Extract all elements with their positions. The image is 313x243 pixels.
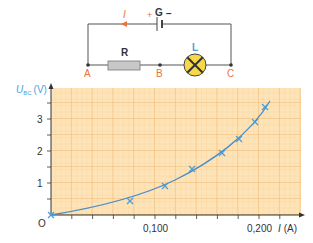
x-axis-label-unit: (A) (284, 223, 297, 234)
generator-minus-label: − (166, 8, 172, 19)
current-arrow-icon (121, 21, 127, 27)
node-a-dot (86, 63, 90, 67)
circuit-diagram: + G − I R L A B C (84, 7, 234, 79)
generator-plus-label: + (147, 10, 152, 20)
y-tick-label-1: 1 (37, 178, 43, 189)
y-axis-arrow-icon (49, 83, 54, 89)
node-b-label: B (156, 68, 163, 79)
node-c-label: C (227, 68, 234, 79)
x-ticks (72, 215, 280, 219)
x-tick-label-0-100: 0,100 (143, 223, 168, 234)
lamp-icon (184, 54, 206, 76)
chart: 1 2 3 0,100 0,200 O UBC(V) I(A) (16, 83, 305, 234)
y-tick-label-2: 2 (37, 146, 43, 157)
y-ticks (47, 103, 51, 199)
origin-label: O (38, 218, 46, 229)
current-label: I (123, 9, 126, 20)
x-tick-label-0-200: 0,200 (247, 223, 272, 234)
y-tick-label-3: 3 (37, 114, 43, 125)
node-c-dot (229, 63, 233, 67)
node-b-dot (158, 63, 162, 67)
y-axis-label: UBC(V) (16, 84, 47, 96)
y-axis-label-sub: BC (23, 90, 32, 96)
generator-label: G (155, 7, 163, 18)
resistor-icon (108, 61, 140, 70)
circuit-wire (88, 24, 231, 65)
grid-major (51, 88, 301, 215)
lamp-label: L (192, 42, 198, 53)
x-axis-arrow-icon (299, 213, 305, 218)
battery-icon (157, 17, 162, 31)
resistor-label: R (121, 47, 129, 58)
x-axis-label: I(A) (278, 223, 297, 234)
y-axis-label-unit: (V) (34, 84, 47, 95)
x-axis-label-main: I (278, 223, 281, 234)
figure: + G − I R L A B C (0, 0, 313, 243)
node-a-label: A (84, 68, 91, 79)
